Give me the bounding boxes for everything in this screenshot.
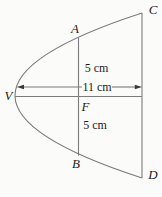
point-label-v: V xyxy=(5,88,15,103)
figure-canvas: V A B C D F 5 cm 11 cm 5 cm xyxy=(0,0,162,197)
measurement-label-upper-5cm: 5 cm xyxy=(85,61,109,75)
right-arrowhead-icon xyxy=(135,85,142,90)
point-label-a: A xyxy=(70,21,79,36)
point-label-d: D xyxy=(147,167,158,182)
measurement-label-lower-5cm: 5 cm xyxy=(83,118,107,132)
parabola-diagram: V A B C D F 5 cm 11 cm 5 cm xyxy=(0,0,162,197)
left-arrowhead-icon xyxy=(17,85,24,90)
point-label-b: B xyxy=(72,156,80,171)
point-label-f: F xyxy=(81,99,91,114)
point-label-c: C xyxy=(149,2,158,17)
measurement-label-width-11cm: 11 cm xyxy=(82,80,112,94)
